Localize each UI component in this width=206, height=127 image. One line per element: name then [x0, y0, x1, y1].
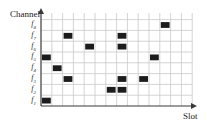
- channel-label-f6: f6: [22, 42, 36, 54]
- occupied-cell: [118, 76, 127, 82]
- channel-label-f2: f2: [22, 85, 36, 97]
- channel-label-f8: f8: [22, 20, 36, 32]
- occupied-cell: [139, 76, 148, 82]
- occupied-cell: [64, 76, 73, 82]
- channel-label-f1: f1: [22, 96, 36, 108]
- channel-label-f3: f3: [22, 74, 36, 86]
- x-axis-arrow-icon: [191, 103, 197, 109]
- x-axis-label: Slot: [183, 112, 198, 121]
- occupied-cell: [42, 55, 51, 61]
- channel-slot-diagram: Channel Slot f1f2f3f4f5f6f7f8: [0, 0, 206, 127]
- occupied-cell: [161, 22, 170, 28]
- occupied-cell: [118, 87, 127, 93]
- y-axis-label: Channel: [10, 10, 40, 19]
- channel-label-f5: f5: [22, 52, 36, 64]
- occupied-cell: [118, 33, 127, 39]
- occupied-cell: [118, 44, 127, 50]
- channel-label-f7: f7: [22, 31, 36, 43]
- occupied-cell: [150, 55, 159, 61]
- occupied-cell: [85, 44, 94, 50]
- occupied-cell: [107, 87, 116, 93]
- channel-label-f4: f4: [22, 63, 36, 75]
- occupied-cell: [53, 65, 62, 71]
- occupied-cell: [42, 98, 51, 104]
- occupied-cell: [64, 33, 73, 39]
